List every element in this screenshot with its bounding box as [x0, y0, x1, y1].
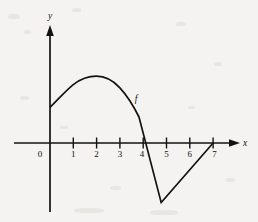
- x-tick-label-1: 1: [71, 149, 76, 159]
- x-axis-label: x: [242, 138, 248, 148]
- x-tick-label-6: 6: [188, 149, 193, 159]
- curve-label-f: f: [135, 94, 139, 104]
- graph-figure: 0 1 2 3 4 5 6 7 x y f: [0, 0, 258, 222]
- x-tick-label-7: 7: [212, 149, 217, 159]
- x-tick-label-4: 4: [140, 149, 145, 159]
- function-curve-f: [50, 76, 213, 202]
- x-tick-label-5: 5: [164, 149, 169, 159]
- x-tick-label-2: 2: [94, 149, 99, 159]
- x-axis-arrowhead: [229, 139, 240, 147]
- graph-svg: 0 1 2 3 4 5 6 7 x y f: [0, 0, 258, 222]
- y-axis-label: y: [47, 11, 53, 21]
- x-axis: [14, 139, 240, 147]
- y-axis: [46, 25, 54, 212]
- x-tick-label-0: 0: [38, 149, 43, 159]
- y-axis-arrowhead: [46, 25, 54, 36]
- x-tick-label-3: 3: [118, 149, 123, 159]
